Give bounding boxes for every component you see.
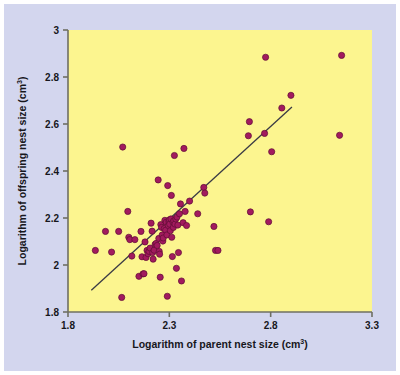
- data-point: [247, 209, 253, 215]
- data-point: [245, 133, 251, 139]
- data-point: [138, 228, 144, 234]
- data-point: [177, 201, 183, 207]
- x-axis-ticks: 1.82.32.83.3: [61, 312, 379, 331]
- data-point: [187, 198, 193, 204]
- data-point: [154, 242, 160, 248]
- data-point: [102, 228, 108, 234]
- data-point: [261, 130, 267, 136]
- data-point: [266, 219, 272, 225]
- data-point: [164, 293, 170, 299]
- y-axis-tick-label: 3: [53, 25, 59, 36]
- data-point: [165, 182, 171, 188]
- data-point: [125, 208, 131, 214]
- y-axis-tick-label: 2: [53, 260, 59, 271]
- data-point: [155, 177, 161, 183]
- data-point: [183, 222, 189, 228]
- x-axis-tick-label: 2.8: [264, 320, 278, 331]
- data-point: [108, 249, 114, 255]
- data-point: [181, 145, 187, 151]
- data-point: [129, 253, 135, 259]
- x-axis-title: Logarithm of parent nest size (cm3): [132, 338, 307, 350]
- data-point: [176, 211, 182, 217]
- data-point: [157, 251, 163, 257]
- y-axis-ticks: 1.822.22.42.62.83: [45, 25, 68, 318]
- data-point: [150, 256, 156, 262]
- data-point: [116, 228, 122, 234]
- data-point: [269, 149, 275, 155]
- data-point: [149, 228, 155, 234]
- data-point: [169, 234, 175, 240]
- y-axis-tick-label: 2.4: [45, 166, 59, 177]
- data-point: [246, 119, 252, 125]
- data-point: [168, 192, 174, 198]
- x-axis-tick-label: 2.3: [162, 320, 176, 331]
- data-point: [336, 132, 342, 138]
- data-point: [173, 265, 179, 271]
- data-point: [263, 54, 269, 60]
- data-point: [175, 249, 181, 255]
- data-point: [169, 253, 175, 259]
- data-point: [92, 247, 98, 253]
- data-point: [339, 52, 345, 58]
- y-axis-tick-label: 1.8: [45, 307, 59, 318]
- x-axis-tick-label: 3.3: [365, 320, 379, 331]
- scatter-plot-svg: 1.822.22.42.62.83 1.82.32.83.3 Logarithm…: [0, 0, 400, 375]
- data-point: [195, 211, 201, 217]
- data-point: [279, 105, 285, 111]
- data-point: [288, 92, 294, 98]
- data-point: [182, 208, 188, 214]
- data-point: [141, 271, 147, 277]
- data-point: [119, 294, 125, 300]
- data-point: [120, 144, 126, 150]
- data-point: [157, 274, 163, 280]
- y-axis-tick-label: 2.2: [45, 213, 59, 224]
- y-axis-tick-label: 2.6: [45, 119, 59, 130]
- data-point: [201, 184, 207, 190]
- figure-container: 1.822.22.42.62.83 1.82.32.83.3 Logarithm…: [0, 0, 400, 375]
- data-point: [211, 223, 217, 229]
- scatter-chart: 1.822.22.42.62.83 1.82.32.83.3 Logarithm…: [0, 0, 400, 375]
- data-point: [215, 247, 221, 253]
- data-point: [202, 190, 208, 196]
- y-axis-title: Logarithm of offspring nest size (cm3): [16, 77, 28, 266]
- data-point: [171, 152, 177, 158]
- x-axis-tick-label: 1.8: [61, 320, 75, 331]
- data-point: [148, 220, 154, 226]
- data-point: [142, 239, 148, 245]
- y-axis-tick-label: 2.8: [45, 72, 59, 83]
- data-point: [178, 278, 184, 284]
- data-point: [132, 237, 138, 243]
